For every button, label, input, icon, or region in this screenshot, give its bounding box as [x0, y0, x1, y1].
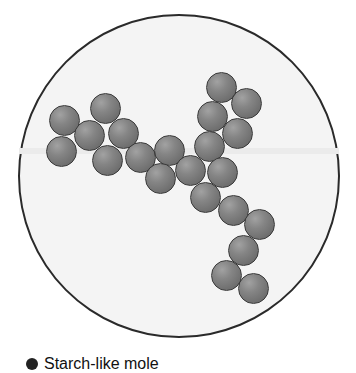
glucose-unit	[238, 273, 269, 304]
glucose-unit	[46, 136, 77, 167]
glucose-unit	[190, 182, 221, 213]
glucose-unit	[231, 88, 262, 119]
legend-dot-icon	[26, 358, 38, 370]
legend: Starch-like mole	[26, 355, 159, 373]
glucose-unit	[222, 118, 253, 149]
glucose-unit	[145, 163, 176, 194]
legend-label: Starch-like mole	[44, 355, 159, 373]
glucose-unit	[92, 145, 123, 176]
